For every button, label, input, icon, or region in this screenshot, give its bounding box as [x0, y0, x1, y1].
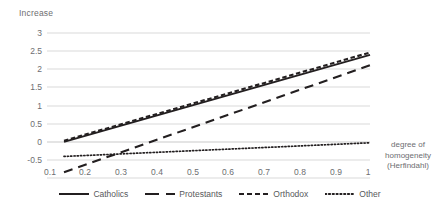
legend-label-catholics: Catholics — [93, 189, 128, 199]
x-axis-title: degree of homogeneity (Herfindahl) — [376, 140, 440, 172]
chart-container: Increase 3 2.5 2 1.5 1 0.5 0 -0.5 0.1 0.… — [0, 0, 440, 209]
x-axis-title-line-3: (Herfindahl) — [376, 161, 440, 172]
x-tick-label: 0.3 — [109, 167, 133, 177]
series-line-protestants — [64, 65, 370, 172]
legend-label-protestants: Protestants — [179, 189, 222, 199]
legend-swatch-protestants — [145, 190, 175, 198]
series-line-catholics — [64, 55, 370, 142]
legend-swatch-other — [325, 190, 355, 198]
legend-swatch-catholics — [59, 190, 89, 198]
x-tick-label: 0.1 — [38, 167, 62, 177]
gridlines — [47, 33, 370, 178]
legend-item-other[interactable]: Other — [325, 189, 380, 199]
legend-item-catholics[interactable]: Catholics — [59, 189, 128, 199]
x-tick-label: 0.2 — [73, 167, 97, 177]
plot-area — [0, 0, 440, 209]
legend-item-orthodox[interactable]: Orthodox — [239, 189, 308, 199]
legend-swatch-orthodox — [239, 190, 269, 198]
series-line-orthodox — [64, 52, 370, 140]
legend: Catholics Protestants Orthodox Other — [0, 189, 440, 199]
legend-label-other: Other — [359, 189, 380, 199]
x-tick-label: 0.6 — [216, 167, 240, 177]
legend-item-protestants[interactable]: Protestants — [145, 189, 222, 199]
x-tick-label: 0.8 — [288, 167, 312, 177]
x-tick-label: 0.4 — [145, 167, 169, 177]
legend-label-orthodox: Orthodox — [273, 189, 308, 199]
x-tick-label: 0.9 — [324, 167, 348, 177]
x-tick-label: 0.5 — [181, 167, 205, 177]
x-tick-label: 0.7 — [252, 167, 276, 177]
series-line-other — [64, 143, 370, 157]
x-axis-title-line-2: homogeneity — [376, 151, 440, 162]
series-lines — [64, 52, 370, 172]
x-axis-title-line-1: degree of — [376, 140, 440, 151]
